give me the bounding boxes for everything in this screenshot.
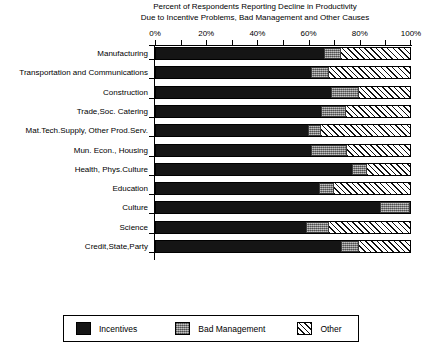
bar-segment-badmgmt[interactable]	[324, 48, 342, 59]
category-label: Credit,State,Party	[0, 242, 148, 251]
bar-segment-incentives[interactable]	[156, 183, 319, 194]
x-tick-label: 60%	[301, 29, 317, 38]
chart-legend: IncentivesBad ManagementOther	[63, 315, 359, 342]
stacked-bar[interactable]	[155, 144, 411, 157]
x-tick	[385, 40, 386, 45]
x-tick-label: 0%	[149, 29, 161, 38]
category-label: Culture	[0, 203, 148, 212]
bar-segment-incentives[interactable]	[156, 87, 331, 98]
bar-row	[155, 66, 411, 79]
bar-segment-badmgmt[interactable]	[321, 106, 346, 117]
chart-title: Percent of Respondents Reporting Decline…	[90, 2, 420, 23]
x-tick	[283, 40, 284, 45]
x-tick-label: 100%	[401, 29, 421, 38]
stacked-bar[interactable]	[155, 201, 411, 214]
legend-label: Incentives	[99, 324, 137, 334]
legend-label: Other	[320, 324, 341, 334]
bar-segment-incentives[interactable]	[156, 164, 352, 175]
bar-segment-other[interactable]	[367, 164, 410, 175]
bar-row	[155, 221, 411, 234]
legend-label: Bad Management	[198, 324, 265, 334]
bar-segment-other[interactable]	[346, 106, 410, 117]
bar-segment-incentives[interactable]	[156, 48, 324, 59]
x-tick-label: 20%	[198, 29, 214, 38]
bar-segment-incentives[interactable]	[156, 202, 380, 213]
bar-row	[155, 144, 411, 157]
bar-segment-other[interactable]	[334, 183, 410, 194]
category-label: Science	[0, 223, 148, 232]
category-label: Mun. Econ., Housing	[0, 146, 148, 155]
x-tick-label: 40%	[249, 29, 265, 38]
bar-row	[155, 86, 411, 99]
bar-row	[155, 47, 411, 60]
bar-segment-other[interactable]	[341, 48, 410, 59]
bar-segment-incentives[interactable]	[156, 125, 308, 136]
stacked-bar[interactable]	[155, 66, 411, 79]
chart-title-line-2: Due to Incentive Problems, Bad Managemen…	[90, 13, 420, 24]
bar-segment-other[interactable]	[329, 67, 410, 78]
bar-segment-badmgmt[interactable]	[308, 125, 321, 136]
bar-segment-other[interactable]	[359, 87, 410, 98]
bar-row	[155, 163, 411, 176]
bar-segment-incentives[interactable]	[156, 106, 321, 117]
category-label: Transportation and Communications	[0, 68, 148, 77]
category-label: Mat.Tech.Supply, Other Prod.Serv.	[0, 126, 148, 135]
x-tick-label: 80%	[352, 29, 368, 38]
bar-row	[155, 240, 411, 253]
bar-segment-badmgmt[interactable]	[352, 164, 367, 175]
bar-row	[155, 201, 411, 214]
category-labels: ManufacturingTransportation and Communic…	[0, 46, 148, 259]
legend-item[interactable]: Bad Management	[175, 322, 265, 335]
stacked-bar[interactable]	[155, 221, 411, 234]
stacked-bar[interactable]	[155, 124, 411, 137]
category-label: Education	[0, 184, 148, 193]
bar-segment-incentives[interactable]	[156, 241, 341, 252]
x-tick	[181, 40, 182, 45]
plot-area	[155, 46, 411, 259]
stacked-bar[interactable]	[155, 47, 411, 60]
bar-segment-badmgmt[interactable]	[331, 87, 359, 98]
bar-segment-other[interactable]	[359, 241, 410, 252]
legend-swatch-incentives-icon	[76, 322, 91, 335]
category-label: Trade,Soc. Catering	[0, 107, 148, 116]
bar-row	[155, 124, 411, 137]
category-label: Construction	[0, 88, 148, 97]
legend-item[interactable]: Other	[297, 322, 341, 335]
bar-segment-incentives[interactable]	[156, 145, 311, 156]
stacked-bar[interactable]	[155, 182, 411, 195]
bar-segment-incentives[interactable]	[156, 67, 311, 78]
legend-swatch-badmgmt-icon	[175, 322, 190, 335]
legend-item[interactable]: Incentives	[76, 322, 137, 335]
bar-row	[155, 105, 411, 118]
legend-swatch-other-icon	[297, 322, 312, 335]
stacked-bar[interactable]	[155, 240, 411, 253]
bar-segment-other[interactable]	[347, 145, 411, 156]
category-label: Manufacturing	[0, 49, 148, 58]
bar-segment-badmgmt[interactable]	[380, 202, 410, 213]
bar-segment-badmgmt[interactable]	[306, 222, 329, 233]
bar-segment-badmgmt[interactable]	[319, 183, 334, 194]
stacked-bar[interactable]	[155, 105, 411, 118]
bar-segment-badmgmt[interactable]	[311, 67, 329, 78]
bar-segment-other[interactable]	[321, 125, 410, 136]
bar-segment-badmgmt[interactable]	[341, 241, 359, 252]
stacked-bar[interactable]	[155, 163, 411, 176]
x-tick	[232, 40, 233, 45]
x-tick	[334, 40, 335, 45]
stacked-bar[interactable]	[155, 86, 411, 99]
bar-segment-incentives[interactable]	[156, 222, 306, 233]
chart-title-line-1: Percent of Respondents Reporting Decline…	[90, 2, 420, 13]
bar-segment-badmgmt[interactable]	[311, 145, 347, 156]
bar-row	[155, 182, 411, 195]
bar-segment-other[interactable]	[329, 222, 410, 233]
category-label: Health, Phys.Culture	[0, 165, 148, 174]
